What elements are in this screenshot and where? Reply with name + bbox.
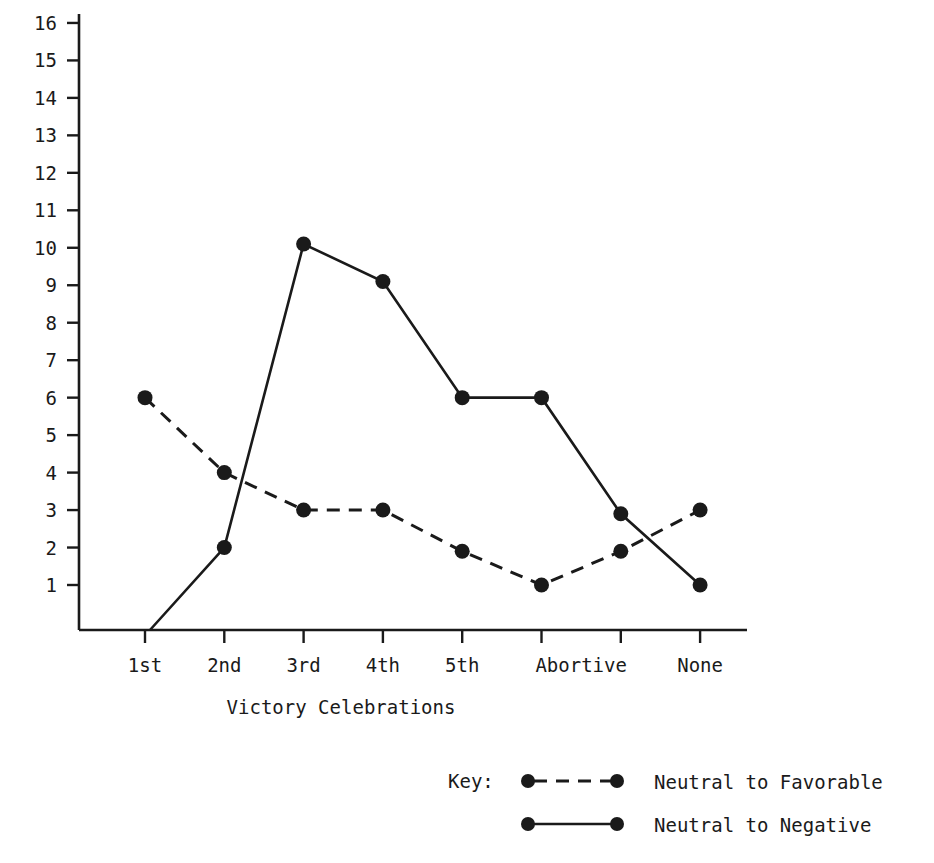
x-tick-label: Abortive: [535, 654, 627, 676]
series-neutral-to-negative: [150, 237, 708, 630]
x-tick-label: None: [677, 654, 723, 676]
data-point-dashed: [375, 503, 390, 518]
y-tick-label: 6: [46, 387, 57, 409]
data-point-dashed: [138, 390, 153, 405]
data-point-dashed: [296, 503, 311, 518]
data-point-dashed: [534, 578, 549, 593]
legend-marker-solid-end: [610, 817, 624, 831]
line-chart-svg: 16151413121110987654321 1st2nd3rd4th5thA…: [0, 0, 934, 863]
x-axis-title: Victory Celebrations: [227, 696, 456, 718]
data-point-dashed: [613, 544, 628, 559]
y-axis-tick-labels: 16151413121110987654321: [34, 12, 57, 596]
x-axis-tick-labels: 1st2nd3rd4th5thAbortiveNone: [128, 654, 723, 676]
series-markers-dashed: [138, 390, 708, 592]
x-axis-ticks: [145, 630, 700, 643]
y-tick-label: 2: [46, 537, 57, 559]
legend-marker-dashed-end: [610, 774, 624, 788]
y-tick-label: 8: [46, 312, 57, 334]
y-tick-label: 13: [34, 124, 57, 146]
data-point-dashed: [693, 503, 708, 518]
y-tick-label: 4: [46, 462, 57, 484]
x-tick-label: 3rd: [286, 654, 320, 676]
data-point-solid: [217, 540, 232, 555]
y-tick-label: 12: [34, 162, 57, 184]
legend-marker-dashed-start: [521, 774, 535, 788]
data-point-solid: [375, 274, 390, 289]
legend-label-neutral-to-favorable: Neutral to Favorable: [654, 771, 883, 793]
x-tick-label: 1st: [128, 654, 162, 676]
x-tick-label: 2nd: [207, 654, 241, 676]
legend-label-neutral-to-negative: Neutral to Negative: [654, 814, 871, 836]
y-tick-label: 3: [46, 499, 57, 521]
y-tick-label: 10: [34, 237, 57, 259]
y-tick-label: 16: [34, 12, 57, 34]
data-point-solid: [455, 390, 470, 405]
data-point-solid: [693, 578, 708, 593]
data-point-solid: [613, 506, 628, 521]
x-tick-label: 5th: [445, 654, 479, 676]
y-tick-label: 1: [46, 574, 57, 596]
y-tick-label: 15: [34, 49, 57, 71]
x-tick-label: 4th: [366, 654, 400, 676]
y-tick-label: 5: [46, 424, 57, 446]
data-point-solid: [296, 237, 311, 252]
series-line-solid: [150, 244, 700, 630]
series-neutral-to-favorable: [138, 390, 708, 592]
y-tick-label: 9: [46, 274, 57, 296]
y-tick-label: 11: [34, 199, 57, 221]
chart-figure: 16151413121110987654321 1st2nd3rd4th5thA…: [0, 0, 934, 863]
y-axis-ticks: [67, 23, 79, 585]
legend-marker-solid-start: [521, 817, 535, 831]
y-tick-label: 7: [46, 349, 57, 371]
data-point-dashed: [455, 544, 470, 559]
data-point-dashed: [217, 465, 232, 480]
data-point-solid: [534, 390, 549, 405]
y-tick-label: 14: [34, 87, 57, 109]
legend-key-label: Key:: [448, 770, 494, 792]
chart-legend: Key: Neutral to Favorable Neutral to Neg…: [448, 770, 883, 836]
